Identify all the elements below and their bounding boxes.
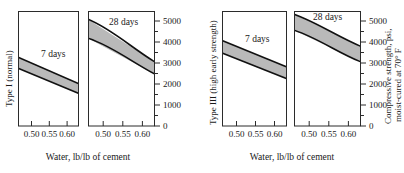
left-xaxis-title: Water, lb/lb of cement [46, 152, 131, 162]
compressive-strength-chart: 0.50 0.55 0.60 7 days Type I (normal) 0.… [0, 0, 404, 173]
yticklabel-1000-a: 1000 [163, 100, 182, 110]
panel-4-xticklabel-060: 0.60 [341, 129, 357, 139]
panel-3-xticklabel-050: 0.50 [229, 129, 245, 139]
yticklabel-0-a: 0 [163, 121, 168, 131]
figure-container: 0.50 0.55 0.60 7 days Type I (normal) 0.… [0, 0, 404, 173]
panel-2-xticklabel-060: 0.60 [135, 129, 151, 139]
panel-2-xticklabel-055: 0.55 [115, 129, 131, 139]
yticklabel-0-b: 0 [369, 121, 374, 131]
panel-type-3-7-days: 0.50 0.55 0.60 7 days [222, 12, 287, 140]
right-yaxis-title-line2: moist-cured at 70° F [393, 48, 403, 122]
panel-3-xticklabel-055: 0.55 [248, 129, 264, 139]
left-block-yaxis: 5000 4000 3000 2000 1000 0 [155, 12, 182, 132]
panel-type-3-28-days: 0.50 0.55 0.60 28 days [294, 12, 361, 140]
right-xaxis-title: Water, lb/lb of cement [250, 152, 335, 162]
panel-1-xticklabel-060: 0.60 [59, 129, 75, 139]
panel-3-series-label: 7 days [245, 34, 270, 44]
panel-3-xticklabel-060: 0.60 [267, 129, 283, 139]
left-group-label: Type I (normal) [4, 50, 14, 107]
yticklabel-3000-a: 3000 [163, 58, 182, 68]
yticklabel-5000-a: 5000 [163, 16, 182, 26]
panel-1-xticklabel-050: 0.50 [24, 129, 40, 139]
yticklabel-4000-a: 4000 [163, 37, 182, 47]
panel-4-xticklabel-050: 0.50 [301, 129, 317, 139]
panel-1-xticklabel-055: 0.55 [41, 129, 57, 139]
right-group-label: Type III (high early strength) [208, 20, 218, 125]
panel-1-series-label: 7 days [41, 49, 66, 59]
panel-2-xticklabel-050: 0.50 [95, 129, 111, 139]
yticklabel-2000-a: 2000 [163, 79, 182, 89]
right-yaxis-title-line1: Compressive strength, psi, [383, 29, 393, 125]
panel-2-series-label: 28 days [109, 17, 139, 27]
yticklabel-5000-b: 5000 [369, 16, 388, 26]
panel-type-1-28-days: 0.50 0.55 0.60 28 days [88, 12, 155, 140]
panel-4-series-label: 28 days [313, 12, 343, 22]
panel-4-xticklabel-055: 0.55 [321, 129, 337, 139]
panel-type-1-7-days: 0.50 0.55 0.60 7 days [18, 12, 79, 140]
